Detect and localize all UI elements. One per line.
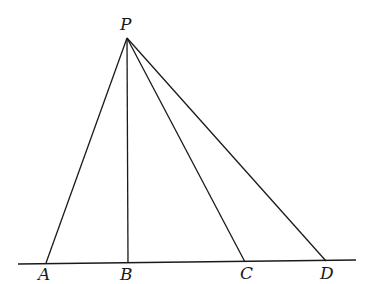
segment-PB [127, 38, 128, 263]
label-B: B [120, 266, 133, 283]
label-P: P [120, 16, 131, 33]
label-D: D [320, 265, 334, 282]
diagram-lines [0, 0, 371, 284]
segment-PA [46, 38, 127, 263]
geometry-diagram: P A B C D [0, 0, 371, 284]
baseline [18, 260, 356, 264]
label-C: C [240, 265, 253, 282]
label-A: A [38, 266, 50, 283]
